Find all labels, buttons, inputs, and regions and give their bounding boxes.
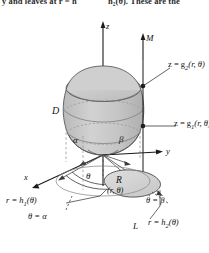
theta-beta-label: θ = β — [146, 196, 164, 205]
base-point-label: (r, θ) — [107, 186, 123, 195]
top-surface-label: z = g2(r, θ) — [168, 60, 205, 71]
theta-alpha-label: θ = α — [28, 212, 47, 221]
inner-radius-label-tail: (θ) — [27, 195, 37, 205]
inner-radius-label-main: r = h — [6, 195, 24, 205]
bottom-surface-label-main: z = g — [174, 118, 191, 128]
vertical-line-m-label: M — [146, 34, 154, 43]
ray-l-label: L — [133, 222, 138, 231]
solid-region-label: D — [52, 106, 59, 116]
top-surface-label-main: z = g — [168, 59, 185, 69]
x-axis-label: x — [24, 173, 28, 182]
leader-lines — [143, 68, 176, 126]
y-axis-label: y — [166, 147, 170, 156]
angle-theta-label: θ — [86, 172, 90, 181]
bottom-surface-label: z = g1(r, θ) — [174, 119, 209, 130]
angle-beta-label: β — [119, 135, 123, 144]
top-surface-label-tail: (r, θ) — [188, 59, 204, 69]
z-axis-label: z — [106, 22, 109, 31]
outer-radius-label: r = h2(θ) — [148, 218, 179, 229]
outer-radius-label-main: r = h — [148, 217, 166, 227]
inner-radius-label: r = h1(θ) — [6, 196, 37, 207]
bottom-surface-label-tail: (r, θ) — [194, 118, 209, 128]
outer-radius-label-tail: (θ) — [169, 217, 179, 227]
vertical-line-m — [141, 33, 146, 60]
figure-root: y and leaves at r = h h₂(θ). These are t… — [0, 0, 209, 253]
angle-alpha-label: α — [73, 136, 78, 145]
